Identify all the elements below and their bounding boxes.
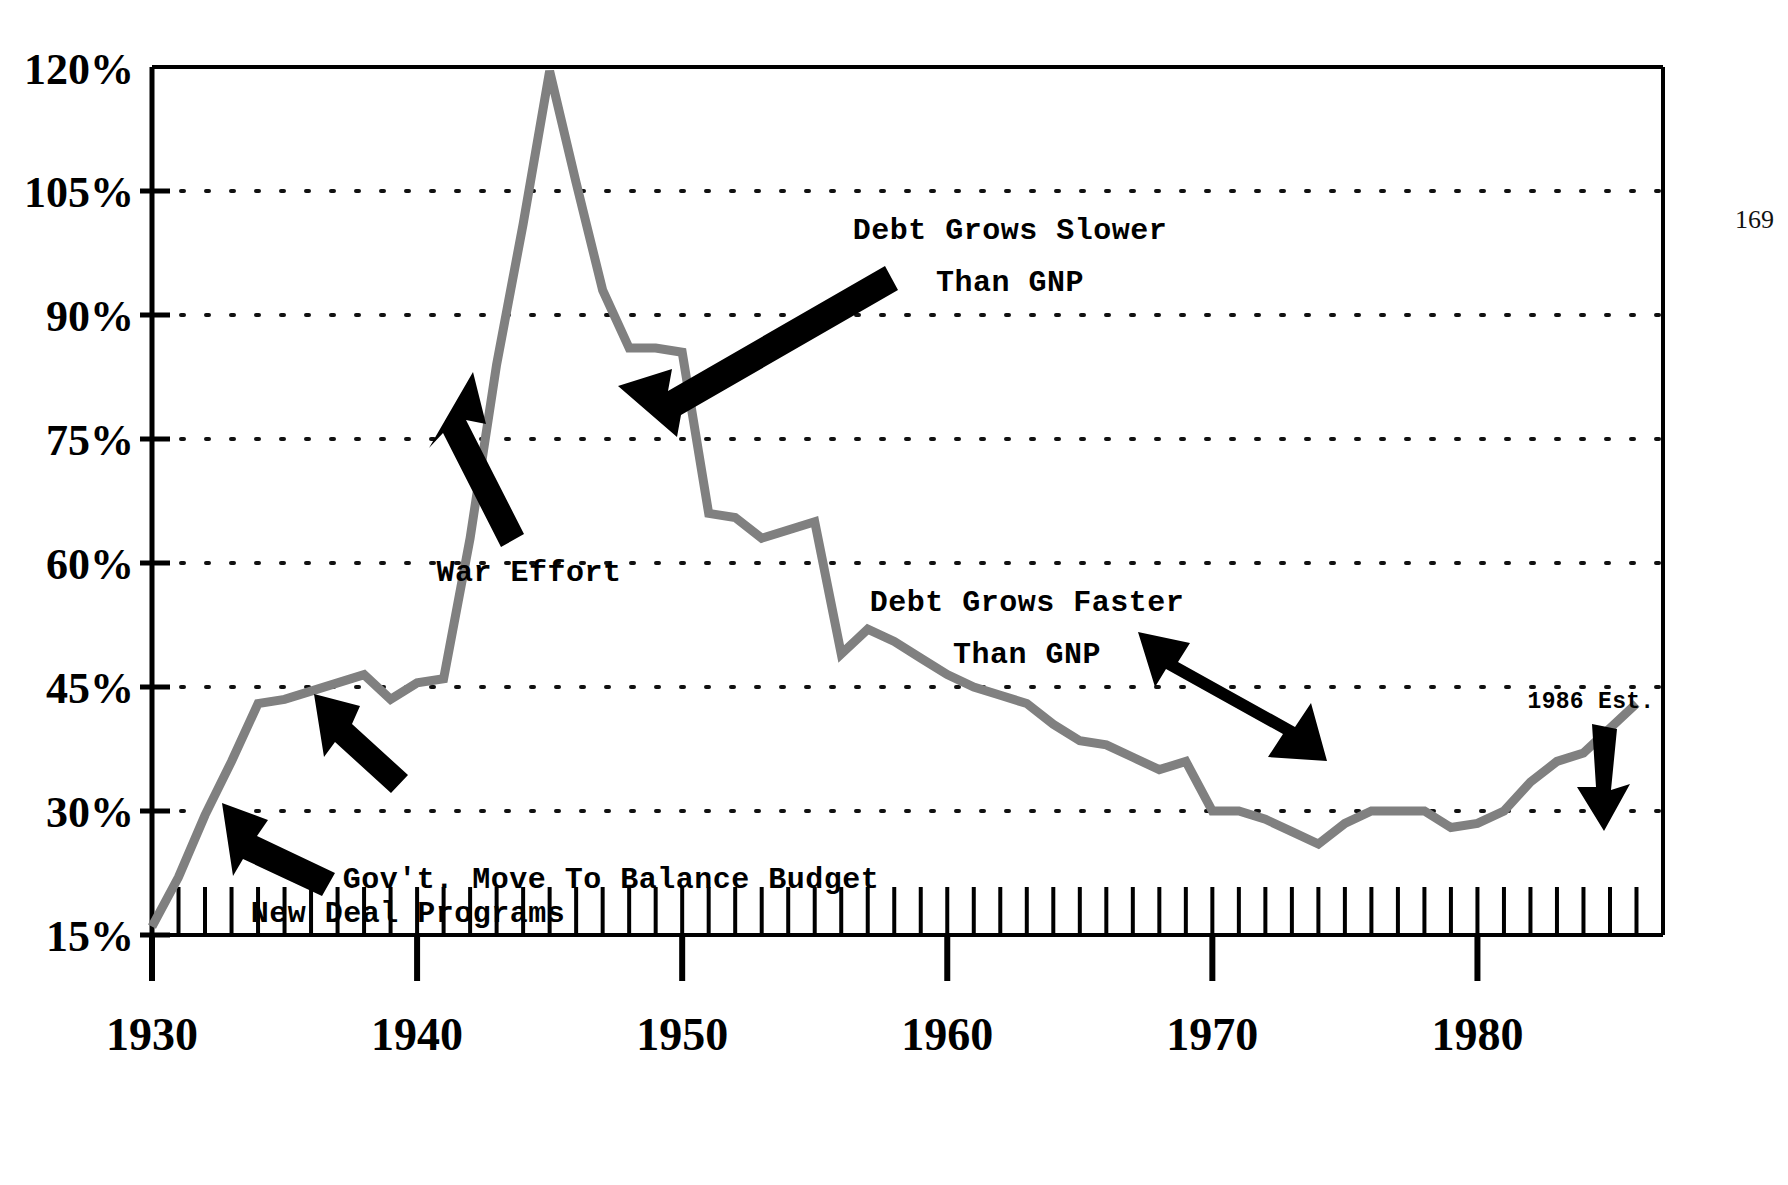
y-tick-label: 105% [24, 168, 134, 217]
annotation-balance-budget: Gov't. Move To Balance Budget [314, 694, 879, 897]
x-tick-label: 1960 [901, 1009, 993, 1060]
debt-faster-label-line1: Debt Grows Faster [870, 586, 1185, 620]
est-1986-arrow-icon [1577, 724, 1630, 831]
annotation-war-effort: War Effort [429, 372, 622, 590]
annotation-debt-slower: Debt Grows Slower Than GNP [618, 214, 1167, 437]
debt-slower-label-line1: Debt Grows Slower [853, 214, 1168, 248]
y-tick-label: 90% [46, 292, 134, 341]
debt-faster-arrow-icon [1138, 632, 1327, 761]
y-tick-label: 45% [46, 664, 134, 713]
debt-slower-label-line2: Than GNP [936, 266, 1084, 300]
new-deal-label: New Deal Programs [251, 897, 566, 931]
x-tick-label: 1970 [1166, 1009, 1258, 1060]
x-tick-label: 1950 [636, 1009, 728, 1060]
chart-page: 169 120% [0, 0, 1788, 1185]
debt-faster-label-line2: Than GNP [953, 638, 1101, 672]
plot-frame [152, 67, 1663, 935]
war-effort-label: War Effort [436, 556, 621, 590]
x-axis-labels: 193019401950196019701980 [106, 1009, 1523, 1060]
x-tick-label: 1940 [371, 1009, 463, 1060]
y-axis-ticks [140, 191, 170, 935]
y-tick-label: 60% [46, 540, 134, 589]
y-tick-label: 75% [46, 416, 134, 465]
x-tick-label: 1980 [1431, 1009, 1523, 1060]
new-deal-arrow-icon [222, 803, 335, 896]
x-axis-major-ticks [152, 935, 1477, 981]
balance-budget-label: Gov't. Move To Balance Budget [343, 863, 880, 897]
y-tick-label: 15% [46, 912, 134, 961]
gridlines [156, 191, 1661, 811]
debt-percent-gnp-line [152, 71, 1636, 927]
debt-to-gnp-line-chart: 120% 105% 90% 75% 60% 45% 30% 15% 193019… [0, 0, 1788, 1185]
page-folio: 169 [1735, 205, 1774, 235]
balance-budget-arrow-icon [314, 694, 408, 793]
x-tick-label: 1930 [106, 1009, 198, 1060]
y-tick-label: 30% [46, 788, 134, 837]
y-axis-labels: 120% 105% 90% 75% 60% 45% 30% 15% [24, 45, 134, 961]
y-tick-label: 120% [24, 45, 134, 94]
est-1986-label: 1986 Est. [1528, 689, 1655, 715]
